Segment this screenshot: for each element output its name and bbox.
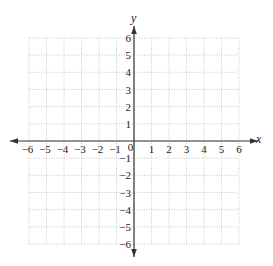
x-tick-label: 2 bbox=[166, 143, 172, 155]
y-tick-label: 3 bbox=[126, 84, 132, 96]
y-tick-label: −5 bbox=[119, 221, 131, 233]
y-tick-label: −4 bbox=[119, 204, 131, 216]
y-tick-label: −6 bbox=[119, 238, 131, 250]
y-axis-label: y bbox=[130, 11, 137, 25]
x-tick-label: −6 bbox=[22, 143, 34, 155]
y-tick-label: −3 bbox=[119, 187, 131, 199]
x-tick-label: 4 bbox=[201, 143, 207, 155]
coordinate-plane: −6−5−4−3−2−10123456 654321−1−2−3−4−5−6 x… bbox=[0, 0, 273, 266]
x-tick-label: 6 bbox=[236, 143, 242, 155]
y-tick-label: 1 bbox=[126, 118, 132, 130]
x-tick-label: −3 bbox=[74, 143, 86, 155]
y-tick-label: 4 bbox=[126, 66, 132, 78]
x-tick-label: 3 bbox=[184, 143, 190, 155]
y-tick-label: 5 bbox=[126, 49, 132, 61]
y-tick-label: −2 bbox=[119, 169, 131, 181]
x-axis-left-arrow-icon bbox=[10, 138, 18, 144]
y-tick-label: 2 bbox=[126, 101, 132, 113]
x-tick-label: −5 bbox=[39, 143, 51, 155]
x-tick-label: −2 bbox=[92, 143, 104, 155]
x-axis-label: x bbox=[255, 132, 262, 146]
y-tick-label: −1 bbox=[119, 152, 131, 164]
y-axis-up-arrow-icon bbox=[131, 26, 137, 34]
x-tick-labels: −6−5−4−3−2−10123456 bbox=[22, 141, 243, 155]
y-tick-label: 6 bbox=[126, 32, 132, 44]
axes bbox=[10, 26, 258, 257]
x-tick-label: −4 bbox=[57, 143, 69, 155]
x-tick-label: 1 bbox=[149, 143, 155, 155]
y-axis-down-arrow-icon bbox=[131, 249, 137, 257]
x-tick-label: 5 bbox=[219, 143, 225, 155]
